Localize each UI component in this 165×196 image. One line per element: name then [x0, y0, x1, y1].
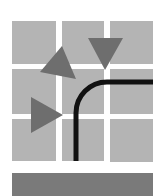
arrow-down-icon [88, 38, 123, 70]
label-bar [12, 173, 153, 196]
route-path-icon [76, 82, 153, 161]
arrow-up-left-icon [40, 46, 76, 79]
arrow-right-icon [31, 97, 63, 133]
route-overlay [0, 0, 165, 196]
